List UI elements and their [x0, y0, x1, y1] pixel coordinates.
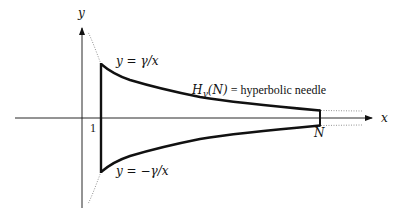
lower-curve-label: y = −γ/x	[115, 164, 169, 178]
upper-curve-label: y = γ/x	[115, 54, 159, 68]
region-description: = hyperbolic needle	[228, 83, 326, 97]
tick-label-1: 1	[90, 121, 96, 135]
region-label: Hγ(N) = hyperbolic needle	[191, 83, 326, 99]
region-symbol: H	[191, 83, 203, 97]
y-axis-label: y	[77, 6, 85, 20]
tick-label-N: N	[313, 126, 325, 140]
lower-curve-dotted-extension-right	[321, 125, 362, 126]
x-axis-label: x	[381, 111, 388, 125]
upper-curve-dotted-extension-left	[88, 32, 101, 64]
hyperbolic-needle-diagram: y x 1 N y = γ/x y = −γ/x Hγ(N) = hyperbo…	[0, 0, 401, 220]
upper-curve-dotted-extension-right	[321, 111, 362, 112]
lower-curve-dotted-extension-left	[88, 172, 101, 204]
region-argument: (N)	[208, 83, 228, 97]
